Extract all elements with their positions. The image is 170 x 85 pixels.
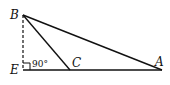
label-B: B (9, 8, 19, 22)
label-A: A (154, 55, 164, 69)
label-E: E (9, 63, 19, 77)
angle-label-90: 90° (32, 59, 48, 69)
label-C: C (72, 56, 81, 70)
right-angle-marker (23, 63, 30, 70)
triangle-diagram: B E C A 90° (0, 0, 170, 85)
